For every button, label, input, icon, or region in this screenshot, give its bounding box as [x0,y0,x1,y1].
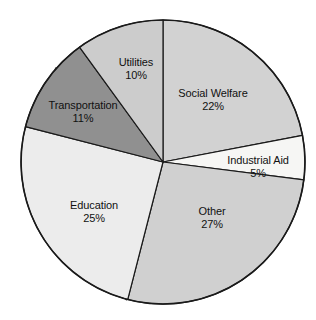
pie-slice-group [21,20,305,304]
pie-chart-canvas [0,0,316,320]
pie-chart: Social Welfare22%Industrial Aid5%Other27… [0,0,316,320]
